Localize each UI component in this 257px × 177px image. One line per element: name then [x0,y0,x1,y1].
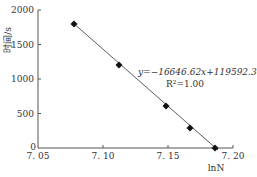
x-tick-label: 7. 15 [157,151,180,161]
data-point [163,103,170,110]
data-point [187,125,194,132]
x-tick-label: 7. 20 [222,151,245,161]
r-squared: R²=1.00 [166,79,204,89]
data-point [116,62,123,69]
x-tick-label: 7. 10 [92,151,115,161]
y-tick-label: 1000 [11,74,34,84]
y-tick-label: 2000 [11,5,34,15]
data-point [71,21,78,28]
y-tick-label: 1500 [11,40,34,50]
x-ticks: 7. 05 7. 10 7. 15 7. 20 [27,145,245,161]
y-tick-label: 500 [17,109,34,119]
y-ticks: 2000 1500 1000 500 0 [11,5,41,152]
x-tick-label: 7. 05 [27,151,50,161]
y-axis-label: 时间/s [2,27,13,53]
x-axis-label: lnN [208,163,225,173]
chart: 2000 1500 1000 500 0 7. 05 7. 10 7. 15 7… [0,0,257,177]
regression-equation: y=−16646.62x+119592.30 [137,67,257,77]
